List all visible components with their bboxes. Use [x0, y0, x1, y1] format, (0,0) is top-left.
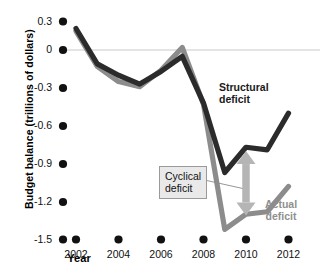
y-axis-tick-dots — [59, 17, 67, 243]
x-tick-label-2002: 2002 — [56, 248, 96, 260]
x-tick-label-2004: 2004 — [99, 248, 139, 260]
x-axis-tick-dots — [72, 235, 293, 243]
x-tick-label-2006: 2006 — [141, 248, 181, 260]
y-tick-label-2: -0.3 — [12, 81, 52, 93]
structural-deficit-label-line2: deficit — [219, 93, 269, 105]
x-tick-label-2008: 2008 — [184, 248, 224, 260]
x-tick-label-2012: 2012 — [269, 248, 309, 260]
cyclical-deficit-label-line2: deficit — [165, 182, 201, 194]
y-tick-label-5: -1.2 — [12, 195, 52, 207]
y-tick-label-4: -0.9 — [12, 157, 52, 169]
actual-deficit-label-line2: deficit — [265, 210, 297, 222]
budget-balance-chart: Budget balance (trillions of dollars) Ye… — [0, 0, 329, 274]
cyclical-deficit-callout: Cyclical deficit — [159, 166, 207, 199]
y-tick-label-6: -1.5 — [12, 233, 52, 245]
y-tick-label-0: 0.3 — [12, 15, 52, 27]
actual-deficit-label-line1: Actual — [265, 198, 297, 210]
structural-deficit-label-line1: Structural — [219, 81, 269, 93]
y-tick-label-1: 0 — [12, 43, 52, 55]
structural-deficit-label: Structural deficit — [219, 81, 269, 105]
x-tick-label-2010: 2010 — [226, 248, 266, 260]
cyclical-deficit-label-line1: Cyclical — [165, 170, 201, 182]
cyclical-deficit-arrow-icon — [237, 151, 256, 215]
actual-deficit-label: Actual deficit — [265, 198, 297, 222]
y-tick-label-3: -0.6 — [12, 119, 52, 131]
